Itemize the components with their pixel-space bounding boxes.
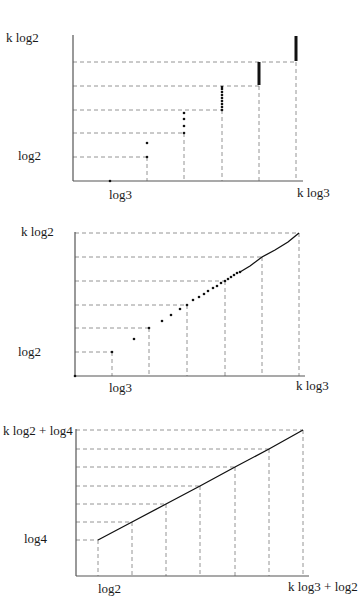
data-point <box>146 142 149 145</box>
data-point <box>221 109 224 112</box>
axis-tick-label: k log2 <box>21 224 54 239</box>
data-point <box>109 180 112 183</box>
data-point <box>111 351 114 354</box>
axis-tick-label: k log2 <box>6 30 39 45</box>
data-point <box>183 118 186 121</box>
data-point <box>221 103 224 106</box>
axis-tick-label: log4 <box>24 531 48 546</box>
data-curve <box>240 233 299 272</box>
data-point <box>216 285 219 288</box>
data-point <box>236 272 239 275</box>
data-point <box>192 299 195 302</box>
data-point <box>203 293 206 296</box>
axis-tick-label: log3 <box>109 380 132 395</box>
data-point <box>183 132 186 135</box>
data-point <box>221 86 224 89</box>
data-point <box>146 156 149 159</box>
axis-tick-label: log2 <box>18 148 41 163</box>
data-point <box>221 97 224 100</box>
data-point <box>74 375 77 378</box>
data-point <box>212 287 215 290</box>
axis-tick-label: k log3 <box>296 378 329 393</box>
data-point <box>161 320 164 323</box>
data-point <box>179 308 182 311</box>
data-point <box>207 290 210 293</box>
axis-tick-label: k log2 + log4 <box>3 423 73 438</box>
data-point <box>230 276 233 279</box>
axis-tick-label: log2 <box>18 344 41 359</box>
data-point <box>148 327 151 330</box>
data-point <box>221 106 224 109</box>
data-point <box>133 338 136 341</box>
chart-panel-discrete-clusters: k log2log2log3k log3 <box>6 30 330 202</box>
data-point <box>198 296 201 299</box>
data-point <box>183 112 186 115</box>
chart-panel-linear-curve: k log2 + log4log4log2k log3 + log2 <box>3 423 358 596</box>
data-point <box>221 91 224 94</box>
data-point <box>183 125 186 128</box>
data-point <box>233 274 236 277</box>
data-point <box>227 278 230 281</box>
chart-panel-merging-points: k log2log2log3k log3 <box>18 224 329 395</box>
data-point <box>220 282 223 285</box>
axis-tick-label: log3 <box>109 187 132 202</box>
three-panel-log-diagram: k log2log2log3k log3 k log2log2log3k log… <box>0 0 360 606</box>
axis-tick-label: log2 <box>98 581 121 596</box>
data-point <box>224 280 227 283</box>
axis-tick-label: k log3 + log2 <box>288 579 358 594</box>
figure-stage: k log2log2log3k log3 k log2log2log3k log… <box>0 0 360 606</box>
axis-tick-label: k log3 <box>297 185 330 200</box>
data-point <box>170 314 173 317</box>
data-point <box>221 100 224 103</box>
data-point <box>221 94 224 97</box>
data-point <box>186 304 189 307</box>
data-curve <box>98 430 303 540</box>
